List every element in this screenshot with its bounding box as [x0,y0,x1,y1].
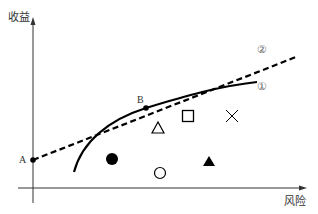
point-a-label: A [19,155,26,165]
line-2-dashed [33,57,296,160]
marker-circle-open-icon [155,168,166,179]
x-axis-label: 风险 [284,196,306,207]
line-2-label: ② [257,44,267,55]
marker-square-open-icon [183,111,194,122]
y-axis-arrow-icon [31,17,36,25]
x-axis [18,186,307,191]
curve-1-label: ① [257,81,267,92]
marker-cross-icon [226,110,238,122]
risk-return-diagram [0,0,318,214]
marker-circle-filled-icon [106,153,118,165]
y-axis [31,17,36,203]
curve-1 [74,82,257,172]
point-b-label: B [137,95,144,105]
point-b-dot [143,105,149,111]
x-axis-arrow-icon [299,186,307,191]
point-a-dot [30,157,36,163]
marker-triangle-filled-icon [203,156,215,166]
y-axis-label: 收益 [8,12,30,23]
marker-triangle-open-icon [152,122,164,133]
